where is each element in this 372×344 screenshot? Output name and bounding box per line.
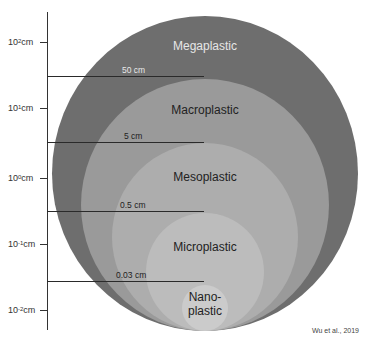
nanoplastic-label-line1: Nano-: [175, 290, 235, 304]
threshold-label-0.03cm: 0.03 cm: [116, 270, 146, 280]
mesoplastic-label: Mesoplastic: [155, 170, 255, 184]
tick-label-10e-2: 10-2cm: [8, 305, 35, 315]
threshold-line-5cm: [47, 142, 204, 143]
macroplastic-label: Macroplastic: [155, 103, 255, 117]
tick-10e-2: [40, 310, 47, 311]
nanoplastic-label-line2: plastic: [175, 304, 235, 318]
threshold-line-0.03cm: [47, 281, 204, 282]
microplastic-label: Microplastic: [155, 240, 255, 254]
threshold-label-50cm: 50 cm: [122, 65, 145, 75]
tick-label-10e2: 102cm: [8, 37, 33, 47]
megaplastic-label: Megaplastic: [155, 39, 255, 53]
threshold-label-5cm: 5 cm: [124, 131, 142, 141]
tick-10e2: [40, 42, 47, 43]
tick-10e0: [40, 178, 47, 179]
threshold-line-50cm: [47, 76, 204, 77]
tick-label-10e0: 100cm: [8, 173, 33, 183]
tick-label-10e1: 101cm: [8, 103, 33, 113]
tick-10e1: [40, 108, 47, 109]
source-credit: Wu et al., 2019: [312, 327, 359, 334]
size-axis: [47, 12, 48, 330]
tick-label-10e-1: 10-1cm: [8, 239, 35, 249]
threshold-line-0.5cm: [47, 211, 204, 212]
threshold-label-0.5cm: 0.5 cm: [120, 200, 146, 210]
tick-10e-1: [40, 244, 47, 245]
nanoplastic-label: Nano- plastic: [175, 290, 235, 318]
